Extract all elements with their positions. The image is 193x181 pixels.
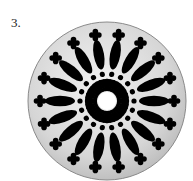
hub <box>98 92 116 110</box>
rose-window-figure <box>0 0 193 181</box>
petal <box>139 96 169 106</box>
dot <box>77 98 82 103</box>
dot <box>131 98 136 103</box>
petal <box>45 96 75 106</box>
